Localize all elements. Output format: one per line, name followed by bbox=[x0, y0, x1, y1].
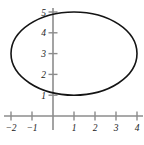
x-tick-label: −1 bbox=[26, 123, 37, 133]
y-tick-label: 3 bbox=[40, 49, 46, 59]
ellipse-graph-figure: −2−11234 12345 bbox=[0, 0, 144, 145]
x-tick-label: −2 bbox=[5, 123, 16, 133]
x-tick-label: 3 bbox=[113, 123, 119, 133]
ellipse-curve bbox=[11, 12, 137, 95]
y-tick-label: 4 bbox=[41, 28, 46, 38]
y-tick-label: 5 bbox=[41, 8, 46, 18]
x-tick-label: 2 bbox=[93, 123, 98, 133]
y-tick-label: 1 bbox=[41, 91, 46, 101]
y-tick-label: 2 bbox=[41, 70, 46, 80]
y-axis-tick-labels: 12345 bbox=[40, 8, 46, 101]
plot-canvas: −2−11234 12345 bbox=[0, 0, 144, 145]
x-tick-label: 4 bbox=[135, 123, 140, 133]
x-axis-tick-labels: −2−11234 bbox=[5, 123, 139, 133]
ellipse-curve-group bbox=[11, 12, 137, 95]
x-tick-label: 1 bbox=[72, 123, 77, 133]
